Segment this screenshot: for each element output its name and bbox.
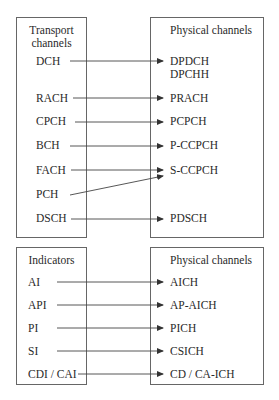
arrow-pch-s-ccpch <box>70 176 163 195</box>
mapping-arrows <box>0 0 279 400</box>
